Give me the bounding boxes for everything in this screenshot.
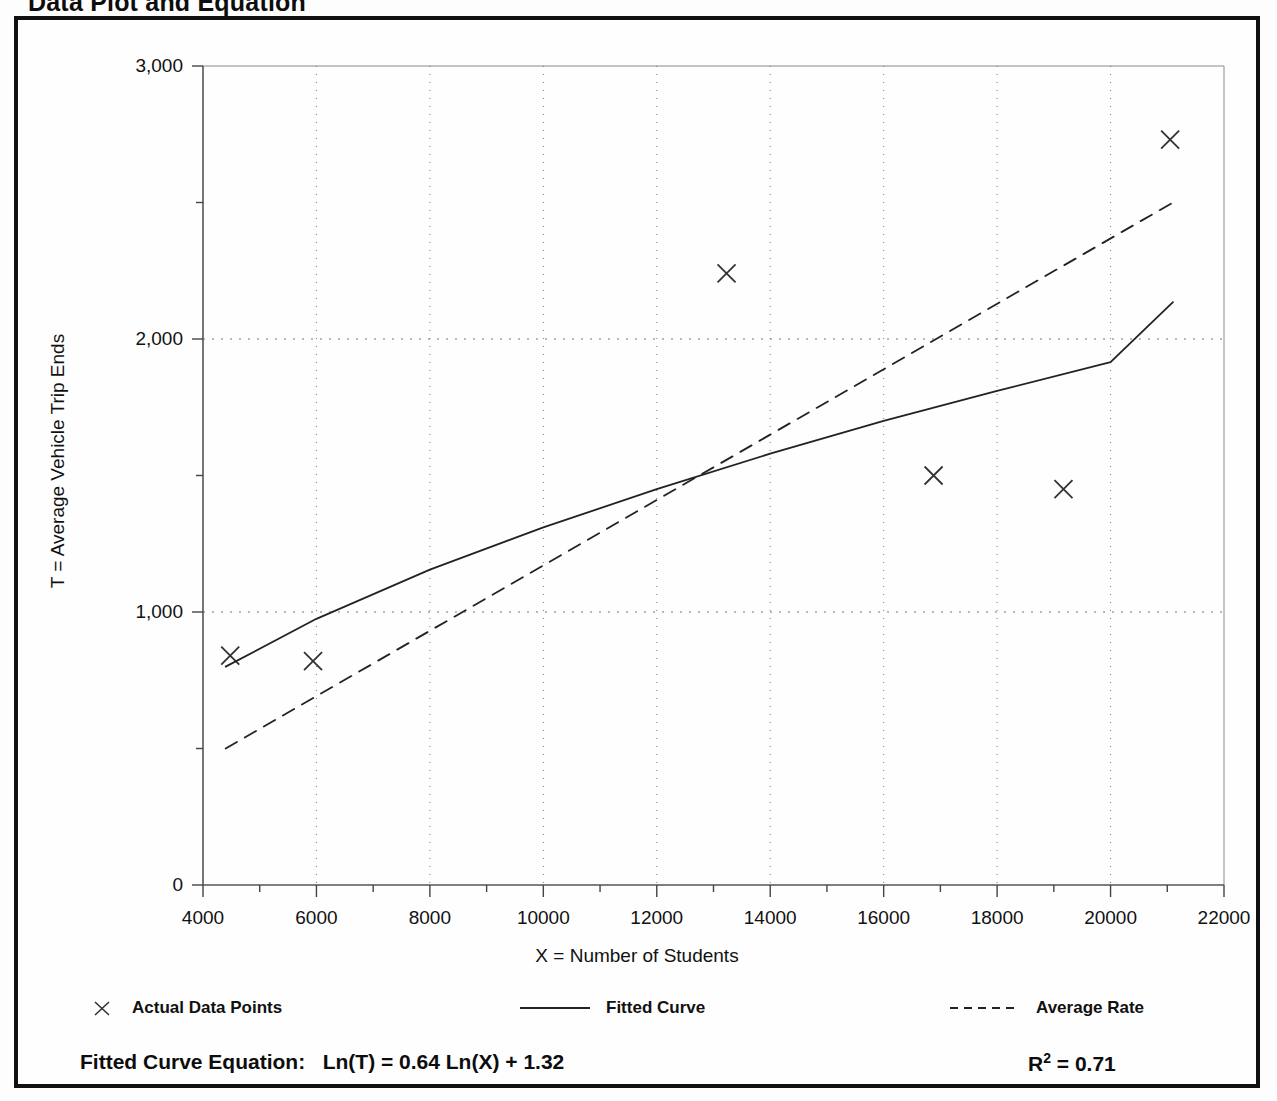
r-exponent: 2 xyxy=(1043,1050,1051,1066)
r-symbol: R xyxy=(1028,1052,1043,1075)
r-squared-value: R2 = 0.71 xyxy=(1028,1050,1116,1076)
data-point-2 xyxy=(718,264,736,282)
x-tick-label-4000: 4000 xyxy=(182,907,224,929)
axes-layer xyxy=(192,66,1224,897)
fitted-equation-label: Fitted Curve Equation: xyxy=(80,1050,305,1073)
y-tick-label-2000: 2,000 xyxy=(78,328,183,350)
legend-item-actual-data-points: Actual Data Points xyxy=(88,998,282,1018)
page-root: Data Plot and Equation 01,0002,0003,000 … xyxy=(0,0,1277,1101)
x-tick-label-18000: 18000 xyxy=(971,907,1024,929)
chart-figure: 01,0002,0003,000 40006000800010000120001… xyxy=(18,20,1256,1084)
y-tick-label-0: 0 xyxy=(78,874,183,896)
r-value: = 0.71 xyxy=(1057,1052,1116,1075)
x-tick-label-22000: 22000 xyxy=(1198,907,1251,929)
fitted-curve-equation: Fitted Curve Equation: Ln(T) = 0.64 Ln(X… xyxy=(80,1050,564,1074)
grid-layer xyxy=(203,66,1224,885)
legend-item-fitted-curve: Fitted Curve xyxy=(518,998,705,1018)
equation-bar: Fitted Curve Equation: Ln(T) = 0.64 Ln(X… xyxy=(18,1050,1256,1090)
data-point-4 xyxy=(1054,480,1072,498)
x-tick-label-10000: 10000 xyxy=(517,907,570,929)
x-tick-label-14000: 14000 xyxy=(744,907,797,929)
legend-label-2: Average Rate xyxy=(1036,998,1144,1018)
y-tick-label-3000: 3,000 xyxy=(78,55,183,77)
fitted-equation-text: Ln(T) = 0.64 Ln(X) + 1.32 xyxy=(323,1050,565,1073)
x-tick-label-6000: 6000 xyxy=(295,907,337,929)
legend-label-1: Fitted Curve xyxy=(606,998,705,1018)
x-tick-label-20000: 20000 xyxy=(1084,907,1137,929)
y-axis-title: T = Average Vehicle Trip Ends xyxy=(47,261,69,661)
series-layer xyxy=(221,131,1179,749)
data-point-1 xyxy=(304,652,322,670)
data-point-0 xyxy=(221,647,239,665)
solid-line-icon xyxy=(518,998,592,1018)
legend-label-0: Actual Data Points xyxy=(132,998,282,1018)
x-tick-label-8000: 8000 xyxy=(409,907,451,929)
legend-item-average-rate: Average Rate xyxy=(948,998,1144,1018)
marker-x-icon xyxy=(88,998,118,1018)
page-title: Data Plot and Equation xyxy=(28,0,306,17)
x-axis-title: X = Number of Students xyxy=(18,945,1256,967)
data-point-5 xyxy=(1161,131,1179,149)
dashed-line-icon xyxy=(948,998,1022,1018)
x-tick-label-16000: 16000 xyxy=(857,907,910,929)
y-tick-label-1000: 1,000 xyxy=(78,601,183,623)
figure-frame: 01,0002,0003,000 40006000800010000120001… xyxy=(14,16,1260,1088)
chart-legend: Actual Data Points Fitted Curve Average … xyxy=(18,998,1256,1032)
data-point-3 xyxy=(925,467,943,485)
x-tick-label-12000: 12000 xyxy=(630,907,683,929)
